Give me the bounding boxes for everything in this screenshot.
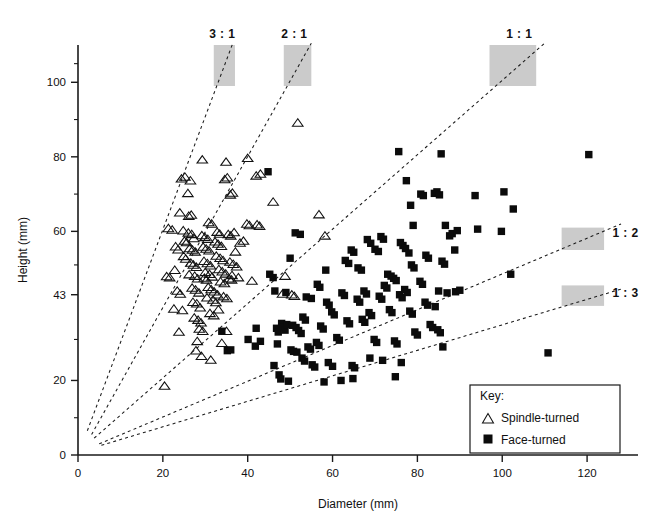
series-face-turned (218, 148, 592, 386)
x-tick-label: 20 (156, 467, 169, 479)
data-point-triangle (183, 189, 194, 196)
data-point-square (437, 150, 444, 157)
data-point-triangle (192, 337, 203, 344)
data-point-square (375, 248, 382, 255)
data-point-square (286, 255, 293, 262)
data-point-square (409, 222, 416, 229)
data-point-square (471, 192, 478, 199)
data-point-square (361, 319, 368, 326)
data-point-triangle (174, 328, 185, 335)
data-point-square (407, 202, 414, 209)
data-point-square (451, 246, 458, 253)
data-point-triangle (197, 156, 208, 163)
ratio-label: 3 : 1 (209, 27, 235, 41)
data-point-square (403, 177, 410, 184)
data-point-square (378, 296, 385, 303)
data-point-square (435, 287, 442, 294)
data-point-square (322, 266, 329, 273)
data-point-triangle (186, 211, 197, 218)
data-point-triangle (280, 272, 291, 279)
data-point-square (456, 287, 463, 294)
data-point-square (585, 151, 592, 158)
data-point-triangle (159, 382, 170, 389)
data-point-square (544, 349, 551, 356)
data-point-square (409, 310, 416, 317)
data-point-triangle (196, 352, 207, 359)
x-tick-label: 40 (241, 467, 254, 479)
data-point-square (285, 378, 292, 385)
y-tick-label: 0 (60, 449, 66, 461)
ratio-line (94, 43, 545, 438)
data-point-square (356, 298, 363, 305)
data-point-square (325, 301, 332, 308)
data-point-triangle (231, 263, 242, 270)
data-point-square (329, 363, 336, 370)
data-point-square (388, 309, 395, 316)
data-point-square (363, 290, 370, 297)
data-point-square (351, 364, 358, 371)
data-point-square (293, 348, 300, 355)
y-tick-label: 20 (53, 374, 66, 386)
data-point-square (439, 343, 446, 350)
data-point-square (366, 354, 373, 361)
data-point-triangle (268, 198, 279, 205)
y-axis-tick-labels: 020436080100 (47, 76, 66, 461)
data-point-triangle (213, 306, 224, 313)
data-point-square (303, 293, 310, 300)
data-point-square (315, 342, 322, 349)
data-point-square (252, 325, 259, 332)
data-point-square (336, 337, 343, 344)
data-point-square (350, 249, 357, 256)
data-point-square (269, 274, 276, 281)
data-point-triangle (221, 158, 232, 165)
data-point-square (277, 375, 284, 382)
data-point-square (244, 336, 251, 343)
ratio-label: 1 : 2 (613, 226, 639, 240)
data-point-square (316, 284, 323, 291)
data-point-square (271, 287, 278, 294)
data-point-square (410, 264, 417, 271)
data-point-square (500, 188, 507, 195)
data-point-square (436, 191, 443, 198)
x-tick-label: 100 (493, 467, 512, 479)
data-point-square (419, 281, 426, 288)
data-point-square (331, 311, 338, 318)
data-point-square (393, 340, 400, 347)
ratio-line (87, 43, 233, 431)
x-tick-label: 0 (75, 467, 81, 479)
legend: Key: Spindle-turned Face-turned (470, 385, 620, 453)
data-point-triangle (292, 119, 303, 126)
ratio-label: 1 : 3 (613, 286, 639, 300)
legend-label-spindle-turned: Spindle-turned (501, 411, 579, 425)
y-tick-label: 100 (47, 76, 66, 88)
data-point-square (474, 225, 481, 232)
data-point-square (270, 362, 277, 369)
ratio-label: 1 : 1 (506, 27, 532, 41)
ratio-label: 2 : 1 (281, 27, 307, 41)
data-point-square (297, 231, 304, 238)
data-point-square (425, 255, 432, 262)
data-point-square (373, 339, 380, 346)
data-point-square (442, 222, 449, 229)
data-point-square (454, 227, 461, 234)
data-point-square (498, 228, 505, 235)
legend-label-face-turned: Face-turned (501, 433, 566, 447)
data-point-square (379, 357, 386, 364)
data-point-triangle (191, 347, 202, 354)
data-point-square (311, 363, 318, 370)
data-point-square (437, 329, 444, 336)
data-point-square (346, 320, 353, 327)
y-tick-label: 43 (53, 289, 66, 301)
data-point-square (392, 373, 399, 380)
data-point-triangle (255, 170, 266, 177)
ratio-box (214, 45, 235, 86)
data-point-square (358, 266, 365, 273)
data-point-square (392, 277, 399, 284)
y-tick-label: 60 (53, 225, 66, 237)
y-axis-ticks (71, 64, 78, 455)
x-axis-ticks (78, 455, 587, 462)
data-point-square (420, 192, 427, 199)
ratio-box (284, 45, 312, 86)
data-point-square (395, 148, 402, 155)
data-point-square (398, 359, 405, 366)
